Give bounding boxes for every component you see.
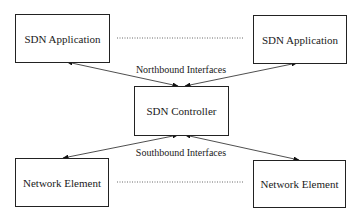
node-label: Network Element [261, 178, 339, 190]
node-label: SDN Application [262, 34, 338, 46]
sdn-application-right: SDN Application [253, 15, 347, 64]
northbound-label: Northbound Interfaces [136, 64, 226, 75]
node-label: Network Element [23, 177, 101, 189]
node-label: SDN Application [24, 33, 100, 45]
node-label: SDN Controller [147, 105, 217, 117]
sdn-application-left: SDN Application [15, 14, 110, 63]
southbound-label: Southbound Interfaces [136, 147, 226, 158]
network-element-right: Network Element [253, 160, 346, 208]
sdn-controller: SDN Controller [134, 86, 229, 136]
network-element-left: Network Element [15, 158, 109, 207]
